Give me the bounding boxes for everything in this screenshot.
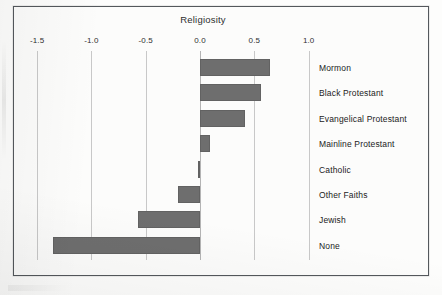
gridline-1.0	[309, 51, 310, 260]
x-axis-tick-label: 0.5	[249, 36, 260, 45]
x-axis-tick-label: -1.0	[84, 36, 98, 45]
bar-catholic	[198, 161, 200, 178]
gridline-0.0	[200, 51, 201, 260]
gridline--1.0	[91, 51, 92, 260]
gridline--1.5	[37, 51, 38, 260]
category-label-catholic: Catholic	[319, 165, 351, 175]
category-label-mainline-protestant: Mainline Protestant	[319, 139, 395, 149]
category-label-black-protestant: Black Protestant	[319, 88, 383, 98]
category-label-none: None	[319, 241, 340, 251]
page-edge-shadow	[2, 40, 6, 160]
category-label-other-faiths: Other Faiths	[319, 190, 368, 200]
bar-mainline-protestant	[200, 135, 210, 152]
x-axis-tick-label: 1.0	[303, 36, 314, 45]
gridline-0.5	[254, 51, 255, 260]
bar-none	[53, 237, 200, 254]
gridline--0.5	[146, 51, 147, 260]
x-axis-tick-label: -0.5	[139, 36, 153, 45]
bar-mormon	[200, 59, 270, 76]
bar-black-protestant	[200, 84, 261, 101]
category-label-jewish: Jewish	[319, 215, 346, 225]
x-axis-tick-label: 0.0	[194, 36, 205, 45]
plot-area: -1.5-1.0-0.50.00.51.0MormonBlack Protest…	[14, 7, 430, 275]
category-label-mormon: Mormon	[319, 63, 351, 73]
bar-evangelical-protestant	[200, 110, 245, 127]
x-axis-tick-label: -1.5	[30, 36, 44, 45]
scan-artifact	[8, 285, 68, 291]
bar-other-faiths	[178, 186, 200, 203]
bar-jewish	[138, 211, 200, 228]
chart-figure: Religiosity -1.5-1.0-0.50.00.51.0MormonB…	[13, 6, 429, 276]
scanned-page: Religiosity -1.5-1.0-0.50.00.51.0MormonB…	[0, 0, 442, 295]
category-label-evangelical-protestant: Evangelical Protestant	[319, 114, 407, 124]
